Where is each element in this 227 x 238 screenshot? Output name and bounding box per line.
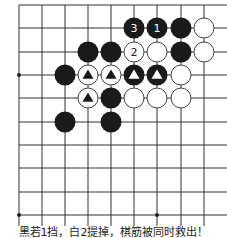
white-stone: 2 (124, 42, 144, 62)
black-stone (101, 112, 122, 133)
white-stone (194, 42, 214, 62)
black-stone (101, 88, 122, 109)
black-stone (171, 42, 192, 63)
white-stone (101, 65, 121, 85)
white-stone (78, 65, 98, 85)
move-number: 2 (131, 46, 138, 59)
black-stone (55, 112, 76, 133)
white-stone (147, 42, 167, 62)
star-point (155, 213, 159, 217)
white-stone (124, 88, 144, 108)
black-stone (78, 42, 99, 63)
black-stone (55, 65, 76, 86)
star-point (17, 73, 21, 77)
white-stone (194, 18, 214, 38)
black-stone (171, 18, 192, 39)
white-stone (171, 88, 191, 108)
diagram-caption: 黑若1挡，白2提掉，棋筋被同时救出！ (0, 226, 227, 238)
black-stone: 3 (124, 18, 145, 39)
black-stone (101, 42, 122, 63)
board-grid (19, 5, 227, 226)
black-stone (124, 65, 145, 86)
black-stone: 1 (147, 18, 168, 39)
go-board: 312 (0, 0, 227, 226)
white-stone (171, 65, 191, 85)
move-number: 3 (131, 22, 138, 35)
white-stone (78, 88, 98, 108)
move-number: 1 (154, 22, 161, 35)
star-point (17, 213, 21, 217)
white-stone (147, 88, 167, 108)
black-stone (147, 65, 168, 86)
